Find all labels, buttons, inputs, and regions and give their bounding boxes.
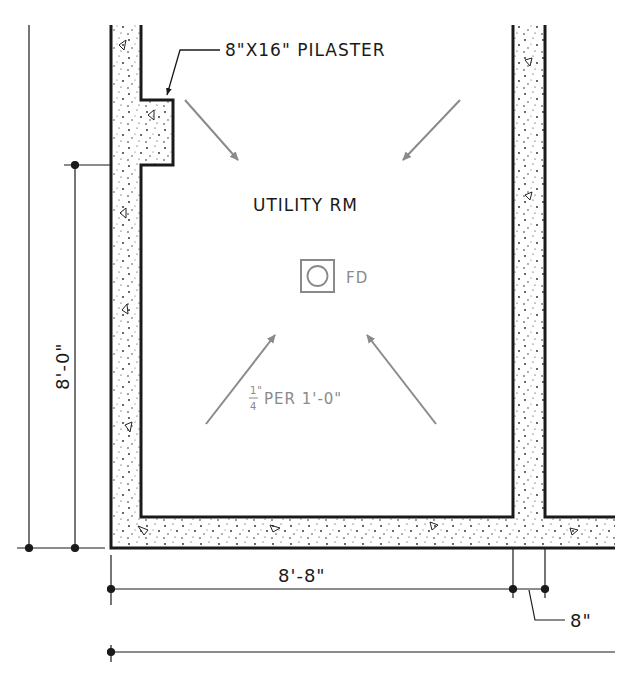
slope-annotation: 1" 4 PER 1'-0" [249,385,342,412]
slope-arrows [185,100,460,424]
floor-drain-icon [301,260,334,292]
slope-text: PER 1'-0" [264,390,342,408]
room-label: UTILITY RM [253,195,358,215]
slope-arrow-bottom-left [206,335,275,424]
slope-fraction-numerator: 1" [250,385,263,396]
floor-drain-label: FD [346,269,368,287]
pilaster-label: 8"X16" PILASTER [225,40,386,60]
floor-plan-drawing: 8"X16" PILASTER UTILITY RM FD 1" 4 PER 1… [0,0,630,675]
slope-fraction-denominator: 4 [250,401,257,412]
dimension-wall-thickness-label: 8" [570,610,592,631]
vertical-dimensions [17,25,111,552]
slope-arrow-top-left [185,100,238,160]
dimension-horizontal-label: 8'-8" [278,565,326,586]
horizontal-dimensions [108,548,616,662]
dimension-vertical-label: 8'-0" [52,342,73,390]
slope-arrow-bottom-right [367,335,436,424]
pilaster-leader [167,50,220,95]
slope-arrow-top-right [403,100,460,160]
